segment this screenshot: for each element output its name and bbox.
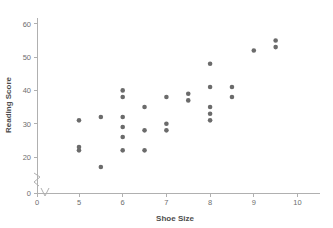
x-tick-label-9: 9 bbox=[252, 198, 256, 207]
y-tick-label-20: 20 bbox=[23, 153, 31, 162]
data-point: Shoe Size: 9.5, Reading Score: 53 bbox=[273, 45, 278, 50]
x-tick-label-8: 8 bbox=[208, 198, 212, 207]
axis-tick-labels: 0567891002030405060 bbox=[23, 20, 302, 207]
y-tick-label-50: 50 bbox=[23, 53, 31, 62]
data-point: Shoe Size: 7, Reading Score: 30 bbox=[164, 121, 169, 126]
data-point: Shoe Size: 6, Reading Score: 26 bbox=[120, 135, 125, 140]
axis-ticks bbox=[34, 24, 298, 197]
data-point: Shoe Size: 6.5, Reading Score: 35 bbox=[142, 105, 147, 110]
data-point: Shoe Size: 9.5, Reading Score: 55 bbox=[273, 38, 278, 43]
x-axis-title: Shoe Size bbox=[156, 214, 194, 223]
data-point: Shoe Size: 8.5, Reading Score: 41 bbox=[230, 85, 235, 90]
data-point: Shoe Size: 6.5, Reading Score: 22 bbox=[142, 148, 147, 153]
y-tick-label-60: 60 bbox=[23, 20, 31, 29]
data-point: Shoe Size: 5, Reading Score: 31 bbox=[77, 118, 82, 123]
data-point: Shoe Size: 6, Reading Score: 22 bbox=[120, 148, 125, 153]
data-point: Shoe Size: 6.5, Reading Score: 28 bbox=[142, 128, 147, 133]
data-point: Shoe Size: 7.5, Reading Score: 39 bbox=[186, 91, 191, 96]
y-tick-label-40: 40 bbox=[23, 86, 31, 95]
data-points: Shoe Size: 5, Reading Score: 31Shoe Size… bbox=[77, 38, 278, 169]
y-tick-label-0: 0 bbox=[27, 189, 31, 198]
data-point: Shoe Size: 8, Reading Score: 35 bbox=[208, 105, 213, 110]
data-point: Shoe Size: 7, Reading Score: 28 bbox=[164, 128, 169, 133]
data-point: Shoe Size: 5, Reading Score: 22 bbox=[77, 148, 82, 153]
data-point: Shoe Size: 6, Reading Score: 38 bbox=[120, 95, 125, 100]
data-point: Shoe Size: 8, Reading Score: 48 bbox=[208, 61, 213, 66]
x-tick-label-6: 6 bbox=[121, 198, 125, 207]
data-point: Shoe Size: 8, Reading Score: 31 bbox=[208, 118, 213, 123]
data-point: Shoe Size: 6, Reading Score: 40 bbox=[120, 88, 125, 93]
data-point: Shoe Size: 8.5, Reading Score: 38 bbox=[230, 95, 235, 100]
data-point: Shoe Size: 6, Reading Score: 29 bbox=[120, 125, 125, 130]
data-point: Shoe Size: 9, Reading Score: 52 bbox=[252, 48, 257, 53]
y-tick-label-30: 30 bbox=[23, 120, 31, 129]
y-axis-break-icon bbox=[34, 173, 40, 186]
x-axis-break-icon bbox=[41, 188, 49, 196]
x-tick-label-0: 0 bbox=[35, 198, 39, 207]
chart-canvas: 0567891002030405060 Shoe Size: 5, Readin… bbox=[0, 0, 333, 228]
x-tick-label-7: 7 bbox=[164, 198, 168, 207]
data-point: Shoe Size: 7.5, Reading Score: 37 bbox=[186, 98, 191, 103]
x-tick-label-10: 10 bbox=[293, 198, 301, 207]
data-point: Shoe Size: 5.5, Reading Score: 17 bbox=[99, 165, 104, 170]
data-point: Shoe Size: 7, Reading Score: 38 bbox=[164, 95, 169, 100]
data-point: Shoe Size: 8, Reading Score: 41 bbox=[208, 85, 213, 90]
axes bbox=[34, 18, 320, 196]
data-point: Shoe Size: 6, Reading Score: 32 bbox=[120, 115, 125, 120]
y-axis-title: Reading Score bbox=[4, 76, 13, 133]
x-tick-label-5: 5 bbox=[77, 198, 81, 207]
scatter-chart: 0567891002030405060 Shoe Size: 5, Readin… bbox=[0, 0, 333, 228]
data-point: Shoe Size: 8, Reading Score: 33 bbox=[208, 111, 213, 116]
data-point: Shoe Size: 5.5, Reading Score: 32 bbox=[99, 115, 104, 120]
